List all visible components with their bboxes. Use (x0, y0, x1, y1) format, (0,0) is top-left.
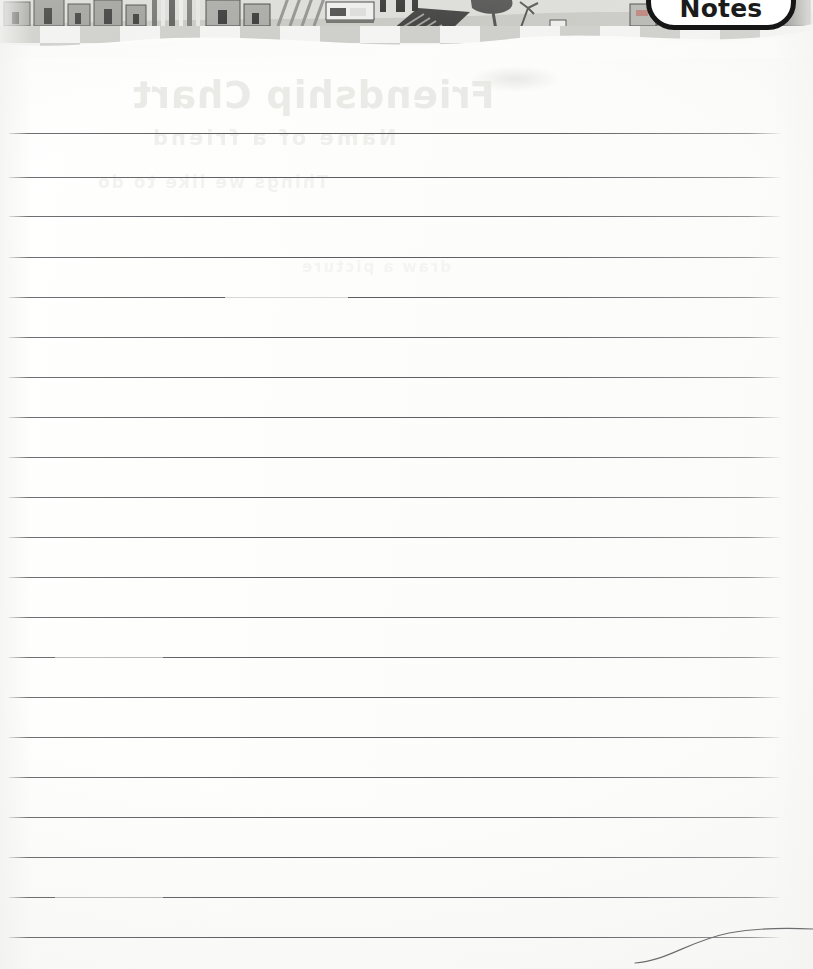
rule-line (9, 857, 780, 858)
page-curl-corner (633, 917, 813, 969)
rule-line (9, 617, 780, 618)
rule-line (9, 337, 780, 338)
rule-line (9, 377, 780, 378)
rule-line (9, 697, 780, 698)
rule-line (9, 817, 780, 818)
rule-line (9, 497, 780, 498)
rule-line (9, 737, 780, 738)
rule-line (9, 257, 780, 258)
rule-line (9, 417, 780, 418)
rule-line (9, 133, 780, 134)
rule-line (9, 457, 780, 458)
notebook-page: Friendship Chart Name of a friend Things… (0, 0, 813, 969)
rule-line (9, 897, 780, 898)
rule-line (9, 177, 780, 178)
notes-tab-label: Notes (680, 0, 763, 25)
rule-line (9, 657, 780, 658)
rule-line (9, 537, 780, 538)
rule-line (9, 777, 780, 778)
rule-line (9, 216, 780, 217)
rule-line (9, 577, 780, 578)
rule-line (9, 297, 780, 298)
notes-tab[interactable]: Notes (646, 0, 796, 30)
ruled-lines (0, 0, 813, 969)
